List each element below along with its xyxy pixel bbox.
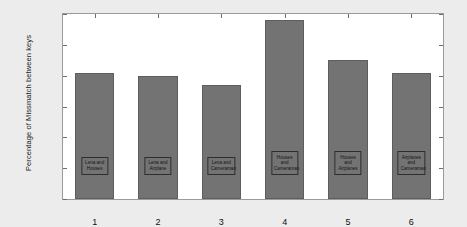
x-tick-label: 6: [391, 217, 431, 227]
x-tick-mark: [348, 14, 349, 18]
bar-caption: Houses and Cameraman: [271, 151, 298, 175]
bar-caption: Lena and Airplane: [144, 157, 171, 175]
y-tick-mark: [63, 168, 67, 169]
bar-caption: Lena and Cameraman: [208, 157, 235, 175]
y-tick-mark: [439, 168, 443, 169]
bar-chart-figure: Percentage of Missmatch between keys 010…: [0, 0, 467, 227]
bar-caption: Houses and Airplanes: [334, 151, 361, 175]
bar: Houses and Airplanes: [328, 60, 367, 199]
y-tick-mark: [63, 137, 67, 138]
x-tick-mark: [411, 14, 412, 18]
x-tick-mark: [158, 14, 159, 18]
y-tick-mark: [63, 14, 67, 15]
y-tick-mark: [439, 14, 443, 15]
y-axis-title: Percentage of Missmatch between keys: [22, 3, 36, 203]
x-tick-label: 4: [265, 217, 305, 227]
x-tick-mark: [221, 14, 222, 18]
bar: Lena and Houses: [75, 73, 114, 199]
x-tick-mark: [285, 14, 286, 18]
bar-caption: Airplanes and Cameraman: [398, 151, 425, 175]
y-tick-mark: [439, 76, 443, 77]
bar: Lena and Airplane: [138, 76, 177, 199]
y-tick-mark: [63, 199, 67, 200]
plot-area: 0102030405060 123456 Lena and HousesLena…: [62, 13, 444, 200]
bar: Lena and Cameraman: [202, 85, 241, 199]
x-tick-label: 5: [328, 217, 368, 227]
y-tick-mark: [439, 45, 443, 46]
x-tick-label: 2: [138, 217, 178, 227]
x-tick-label: 1: [75, 217, 115, 227]
y-tick-mark: [63, 107, 67, 108]
x-tick-mark: [95, 14, 96, 18]
y-tick-mark: [63, 76, 67, 77]
y-tick-mark: [439, 107, 443, 108]
bar: Airplanes and Cameraman: [392, 73, 431, 199]
y-tick-mark: [439, 199, 443, 200]
bar: Houses and Cameraman: [265, 20, 304, 199]
bar-caption: Lena and Houses: [81, 157, 108, 175]
y-tick-mark: [63, 45, 67, 46]
x-tick-label: 3: [201, 217, 241, 227]
y-tick-mark: [439, 137, 443, 138]
